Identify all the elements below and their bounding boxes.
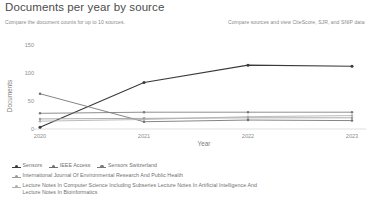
legend-label: IEEE Access xyxy=(60,162,91,169)
series-line xyxy=(40,112,352,113)
series-data-point[interactable] xyxy=(39,118,42,121)
line-chart: 050100150 2020202120222023 Documents Yea… xyxy=(0,34,372,148)
x-tick-label: 2020 xyxy=(34,133,46,139)
x-tick-label: 2022 xyxy=(242,133,254,139)
y-axis-ticks: 050100150 xyxy=(25,42,34,132)
legend-label: Lecture Notes In Computer Science Includ… xyxy=(23,182,273,197)
series-data-point[interactable] xyxy=(351,114,354,117)
y-tick-label: 100 xyxy=(25,70,34,76)
series-data-point[interactable] xyxy=(39,92,42,95)
series-data-point[interactable] xyxy=(351,119,354,122)
legend-item[interactable]: IEEE Access xyxy=(49,162,90,171)
x-axis-ticks: 2020202120222023 xyxy=(34,133,358,139)
chart-series xyxy=(39,111,354,115)
page-subtitle: Compare the document counts for up to 10… xyxy=(5,19,125,25)
x-axis-title: Year xyxy=(198,140,212,147)
legend-marker-icon xyxy=(97,164,106,171)
x-tick-label: 2023 xyxy=(346,133,358,139)
series-layer xyxy=(39,64,354,129)
y-tick-label: 0 xyxy=(31,126,34,132)
series-data-point[interactable] xyxy=(143,111,146,114)
legend-row: SensorsIEEE AccessSensors Switzerland xyxy=(12,162,370,171)
series-data-point[interactable] xyxy=(247,64,250,67)
series-data-point[interactable] xyxy=(39,112,42,115)
legend-label: International Journal Of Environmental R… xyxy=(23,172,183,179)
legend-marker-icon xyxy=(12,164,21,171)
legend-marker-icon xyxy=(12,184,21,191)
legend-row: Lecture Notes In Computer Science Includ… xyxy=(12,182,370,197)
legend-item[interactable]: Sensors Switzerland xyxy=(97,162,157,171)
series-data-point[interactable] xyxy=(247,115,250,118)
series-data-point[interactable] xyxy=(247,119,250,122)
series-data-point[interactable] xyxy=(39,126,42,129)
legend-label: Sensors Switzerland xyxy=(108,162,157,169)
legend-item[interactable]: Sensors xyxy=(12,162,42,171)
legend-row: International Journal Of Environmental R… xyxy=(12,172,370,181)
legend-label: Sensors xyxy=(23,162,43,169)
y-tick-label: 50 xyxy=(28,98,34,104)
y-tick-label: 150 xyxy=(25,42,34,48)
legend-item[interactable]: Lecture Notes In Computer Science Includ… xyxy=(12,182,273,197)
chart-canvas: 050100150 2020202120222023 Documents Yea… xyxy=(0,34,372,148)
series-data-point[interactable] xyxy=(39,120,42,123)
series-data-point[interactable] xyxy=(247,111,250,114)
legend-marker-icon xyxy=(49,164,58,171)
series-data-point[interactable] xyxy=(143,118,146,121)
page-title: Documents per year by source xyxy=(5,1,164,13)
compare-sources-link[interactable]: Compare sources and view CiteScore, SJR,… xyxy=(228,19,365,25)
series-data-point[interactable] xyxy=(143,81,146,84)
x-tick-label: 2021 xyxy=(138,133,150,139)
series-data-point[interactable] xyxy=(143,120,146,123)
series-data-point[interactable] xyxy=(351,65,354,68)
legend-marker-icon xyxy=(12,174,21,181)
chart-legend: SensorsIEEE AccessSensors SwitzerlandInt… xyxy=(12,162,370,198)
documents-per-year-panel: Documents per year by source Compare the… xyxy=(0,0,372,218)
legend-item[interactable]: International Journal Of Environmental R… xyxy=(12,172,183,181)
y-axis-title: Documents xyxy=(6,80,13,112)
series-data-point[interactable] xyxy=(351,111,354,114)
series-data-point[interactable] xyxy=(351,117,354,120)
